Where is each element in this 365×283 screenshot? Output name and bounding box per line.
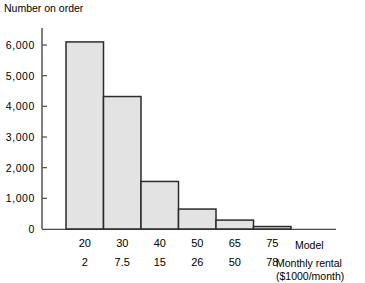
- y-tick-label: 0: [29, 223, 35, 235]
- bar: [66, 42, 104, 229]
- histogram-figure: Number on order 01,0002,0003,0004,0005,0…: [0, 0, 365, 283]
- x-tick-label-model: 40: [154, 237, 166, 249]
- bar: [179, 209, 217, 229]
- y-axis-title: Number on order: [4, 2, 84, 14]
- x-tick-label-rental: 26: [191, 256, 203, 268]
- y-tick-label: 1,000: [6, 192, 35, 204]
- x-tick-label-rental: 2: [82, 256, 88, 268]
- y-tick-label: 6,000: [6, 39, 35, 51]
- bar: [216, 220, 254, 229]
- y-axis-ticks: 01,0002,0003,0004,0005,0006,000: [6, 39, 47, 235]
- bar: [254, 227, 292, 229]
- x-axis-title-rental-units: ($1000/month): [276, 270, 344, 282]
- bar-series: [66, 42, 291, 229]
- x-tick-label-rental: 15: [154, 256, 166, 268]
- x-tick-label-model: 20: [79, 237, 91, 249]
- x-tick-label-model: 30: [116, 237, 128, 249]
- y-tick-label: 5,000: [6, 70, 35, 82]
- y-tick-label: 3,000: [6, 131, 35, 143]
- x-axis-tick-labels-model: 203040506575: [79, 237, 279, 249]
- x-axis-tick-labels-rental: 27.515265078: [82, 256, 279, 268]
- x-tick-label-model: 65: [229, 237, 241, 249]
- bar: [104, 97, 142, 229]
- x-axis-title-rental: Monthly rental: [276, 257, 342, 269]
- y-tick-label: 4,000: [6, 100, 35, 112]
- x-tick-label-rental: 7.5: [115, 256, 130, 268]
- x-axis-title-model: Model: [295, 239, 324, 251]
- bar: [141, 181, 179, 229]
- x-tick-label-model: 50: [191, 237, 203, 249]
- x-tick-label-model: 75: [266, 237, 278, 249]
- y-tick-label: 2,000: [6, 162, 35, 174]
- x-tick-label-rental: 50: [229, 256, 241, 268]
